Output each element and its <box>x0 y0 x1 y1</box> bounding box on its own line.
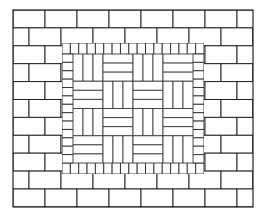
soldier-brick-top <box>62 43 70 54</box>
brick-pattern-figure <box>0 0 267 217</box>
soldier-brick-top <box>137 43 145 54</box>
soldier-brick-bottom <box>171 163 179 174</box>
border-brick <box>77 10 109 28</box>
border-brick <box>237 46 254 64</box>
brick-pattern-drawing <box>0 0 267 217</box>
border-brick <box>12 135 29 153</box>
soldier-brick-bottom <box>179 163 187 174</box>
border-brick <box>45 10 77 28</box>
weave-brick-vertical <box>143 109 153 136</box>
soldier-brick-top <box>162 43 170 54</box>
weave-brick-horizontal <box>163 54 193 63</box>
soldier-brick-bottom <box>162 163 170 174</box>
weave-brick-horizontal <box>73 154 103 163</box>
border-brick <box>221 28 253 46</box>
border-brick <box>29 171 61 189</box>
soldier-brick-bottom <box>137 163 145 174</box>
border-brick <box>13 10 45 28</box>
soldier-brick-right <box>193 113 204 121</box>
weave-brick-vertical <box>173 136 183 163</box>
border-brick <box>12 171 29 189</box>
soldier-brick-top <box>112 43 120 54</box>
weave-brick-horizontal <box>103 72 133 81</box>
border-brick <box>237 82 254 100</box>
soldier-brick-right <box>193 88 204 96</box>
soldier-brick-right <box>193 129 204 137</box>
soldier-brick-bottom <box>87 163 95 174</box>
soldier-brick-top <box>104 43 112 54</box>
soldier-brick-bottom <box>79 163 87 174</box>
soldier-brick-bottom <box>112 163 120 174</box>
border-brick <box>29 135 61 153</box>
weave-brick-horizontal <box>163 72 193 81</box>
weave-brick-vertical <box>123 136 133 163</box>
weave-brick-vertical <box>83 109 93 136</box>
weave-brick-vertical <box>163 81 173 108</box>
soldier-brick-left <box>62 121 73 129</box>
border-brick <box>12 28 29 46</box>
soldier-brick-left <box>62 96 73 104</box>
weave-brick-vertical <box>163 136 173 163</box>
soldier-brick-bottom <box>70 163 78 174</box>
border-brick <box>13 117 45 135</box>
soldier-brick-bottom <box>62 163 70 174</box>
basketweave-field <box>73 54 193 163</box>
weave-brick-vertical <box>93 54 103 81</box>
border-brick <box>205 117 237 135</box>
soldier-brick-right <box>193 96 204 104</box>
weave-brick-vertical <box>113 136 123 163</box>
soldier-brick-top <box>179 43 187 54</box>
weave-brick-vertical <box>103 136 113 163</box>
border-brick <box>45 189 77 207</box>
weave-brick-vertical <box>103 81 113 108</box>
border-brick <box>205 46 237 64</box>
soldier-brick-top <box>154 43 162 54</box>
border-brick <box>13 46 45 64</box>
soldier-brick-left <box>62 71 73 79</box>
weave-brick-vertical <box>133 109 143 136</box>
soldier-brick-left <box>62 88 73 96</box>
weave-brick-horizontal <box>133 136 163 145</box>
weave-brick-horizontal <box>103 54 133 63</box>
border-brick <box>29 64 61 82</box>
weave-brick-horizontal <box>163 127 193 136</box>
weave-brick-horizontal <box>103 63 133 72</box>
weave-brick-vertical <box>183 136 193 163</box>
soldier-brick-bottom <box>187 163 195 174</box>
weave-brick-horizontal <box>133 81 163 90</box>
soldier-brick-top <box>146 43 154 54</box>
border-brick <box>221 64 253 82</box>
weave-brick-horizontal <box>73 136 103 145</box>
soldier-brick-left <box>62 146 73 154</box>
soldier-brick-right <box>193 121 204 129</box>
weave-brick-vertical <box>143 54 153 81</box>
weave-brick-horizontal <box>133 90 163 99</box>
soldier-brick-top <box>187 43 195 54</box>
border-brick <box>141 10 173 28</box>
weave-brick-horizontal <box>73 90 103 99</box>
soldier-brick-top <box>79 43 87 54</box>
weave-brick-horizontal <box>103 109 133 118</box>
soldier-brick-top <box>171 43 179 54</box>
soldier-brick-left <box>62 155 73 163</box>
weave-brick-horizontal <box>73 81 103 90</box>
border-brick <box>221 135 253 153</box>
border-brick <box>221 100 253 118</box>
weave-brick-horizontal <box>73 145 103 154</box>
border-brick <box>77 189 109 207</box>
soldier-brick-left <box>62 54 73 62</box>
soldier-brick-right <box>193 71 204 79</box>
weave-brick-horizontal <box>103 118 133 127</box>
border-brick <box>13 153 45 171</box>
soldier-brick-top <box>196 43 204 54</box>
border-brick <box>29 100 61 118</box>
weave-brick-vertical <box>123 81 133 108</box>
weave-brick-horizontal <box>73 99 103 108</box>
border-brick <box>12 100 29 118</box>
weave-brick-horizontal <box>163 109 193 118</box>
weave-brick-horizontal <box>163 118 193 127</box>
border-brick <box>173 189 205 207</box>
weave-brick-vertical <box>73 109 83 136</box>
border-brick <box>221 171 253 189</box>
weave-brick-vertical <box>83 54 93 81</box>
